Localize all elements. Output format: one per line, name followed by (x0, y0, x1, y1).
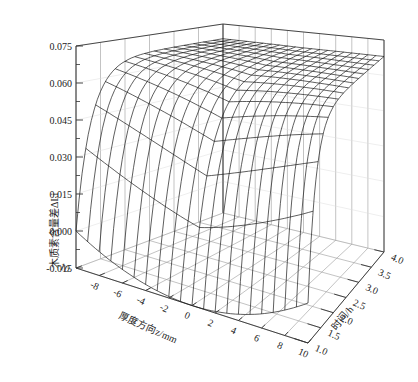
x-tick-label: 10 (297, 346, 311, 360)
surface-plot: -0.0150.0000.0150.0300.0450.0600.075 -10… (0, 0, 418, 382)
x-tick-label: -6 (112, 286, 124, 299)
x-tick-label: 2 (206, 317, 215, 329)
z-tick-label: 0.045 (50, 115, 73, 126)
z-tick-label: 0.030 (50, 152, 73, 163)
z-axis-title: 木质素含量差ΔLi (48, 192, 60, 268)
x-tick-label: 6 (253, 332, 262, 344)
z-tick-label: 0.075 (50, 41, 73, 52)
z-tick-label: 0.060 (50, 78, 73, 89)
x-axis-title: 厚度方向z/mm (117, 309, 179, 346)
y-tick-label: 2.5 (351, 297, 367, 312)
x-tick-label: -8 (89, 279, 101, 292)
x-tick-label: 8 (276, 339, 285, 351)
x-tick-label: 4 (229, 324, 238, 336)
surface-mesh (76, 39, 384, 315)
x-axis-ticks: -10-8-6-4-20246810 (55, 259, 311, 360)
x-tick-label: -4 (135, 294, 147, 307)
x-tick-label: 0 (183, 309, 192, 321)
x-tick-label: -2 (158, 301, 170, 314)
y-tick-label: 3.5 (377, 266, 393, 281)
y-tick-label: 4.0 (389, 251, 405, 266)
y-axis-ticks: 1.01.52.02.53.03.54.0 (294, 250, 405, 358)
y-tick-label: 3.0 (364, 282, 380, 297)
y-tick-label: 1.0 (313, 342, 329, 357)
